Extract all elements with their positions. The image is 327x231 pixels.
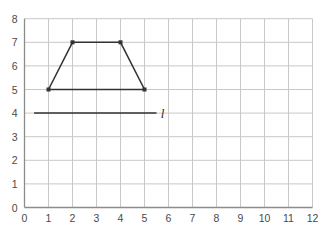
x-tick-label: 4	[118, 212, 124, 224]
plot-area: 0123456789101112 012345678 l	[0, 0, 327, 231]
series-layer	[34, 40, 156, 113]
vertex-marker	[71, 40, 75, 44]
x-tick-label: 9	[238, 212, 244, 224]
y-tick-label: 7	[12, 36, 18, 48]
x-tick-label: 1	[46, 212, 52, 224]
x-tick-label: 8	[214, 212, 220, 224]
x-tick-label: 12	[307, 212, 319, 224]
y-tick-label: 4	[12, 107, 18, 119]
y-tick-label: 0	[12, 202, 18, 214]
y-tick-label: 5	[12, 84, 18, 96]
x-tick-labels: 0123456789101112	[22, 212, 319, 224]
vertex-marker	[119, 40, 123, 44]
y-tick-label: 1	[12, 178, 18, 190]
x-tick-label: 5	[142, 212, 148, 224]
vertex-marker	[143, 88, 147, 92]
y-tick-labels: 012345678	[12, 13, 18, 214]
y-tick-label: 3	[12, 131, 18, 143]
y-tick-label: 8	[12, 13, 18, 25]
vertex-marker	[47, 88, 51, 92]
x-tick-label: 10	[259, 212, 271, 224]
coordinate-grid-figure: 0123456789101112 012345678 l	[0, 0, 327, 231]
x-tick-label: 7	[190, 212, 196, 224]
x-tick-label: 2	[70, 212, 76, 224]
x-tick-label: 6	[166, 212, 172, 224]
x-tick-label: 11	[283, 212, 294, 224]
series-label-line-l: l	[161, 106, 165, 121]
x-tick-label: 0	[22, 212, 28, 224]
series-labels: l	[161, 106, 165, 121]
y-tick-label: 2	[12, 154, 18, 166]
y-tick-label: 6	[12, 60, 18, 72]
x-tick-label: 3	[94, 212, 100, 224]
